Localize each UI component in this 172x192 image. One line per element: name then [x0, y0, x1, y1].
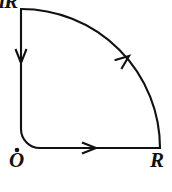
contour-drawing	[0, 0, 172, 192]
contour-diagram-figure: iR O R	[0, 0, 172, 192]
origin-indentation-arc-path	[21, 129, 40, 148]
real-axis-right-label: R	[150, 150, 164, 171]
imaginary-axis-top-label: iR	[0, 0, 18, 12]
circular-arc-path	[21, 9, 160, 148]
origin-label: O	[9, 150, 24, 171]
